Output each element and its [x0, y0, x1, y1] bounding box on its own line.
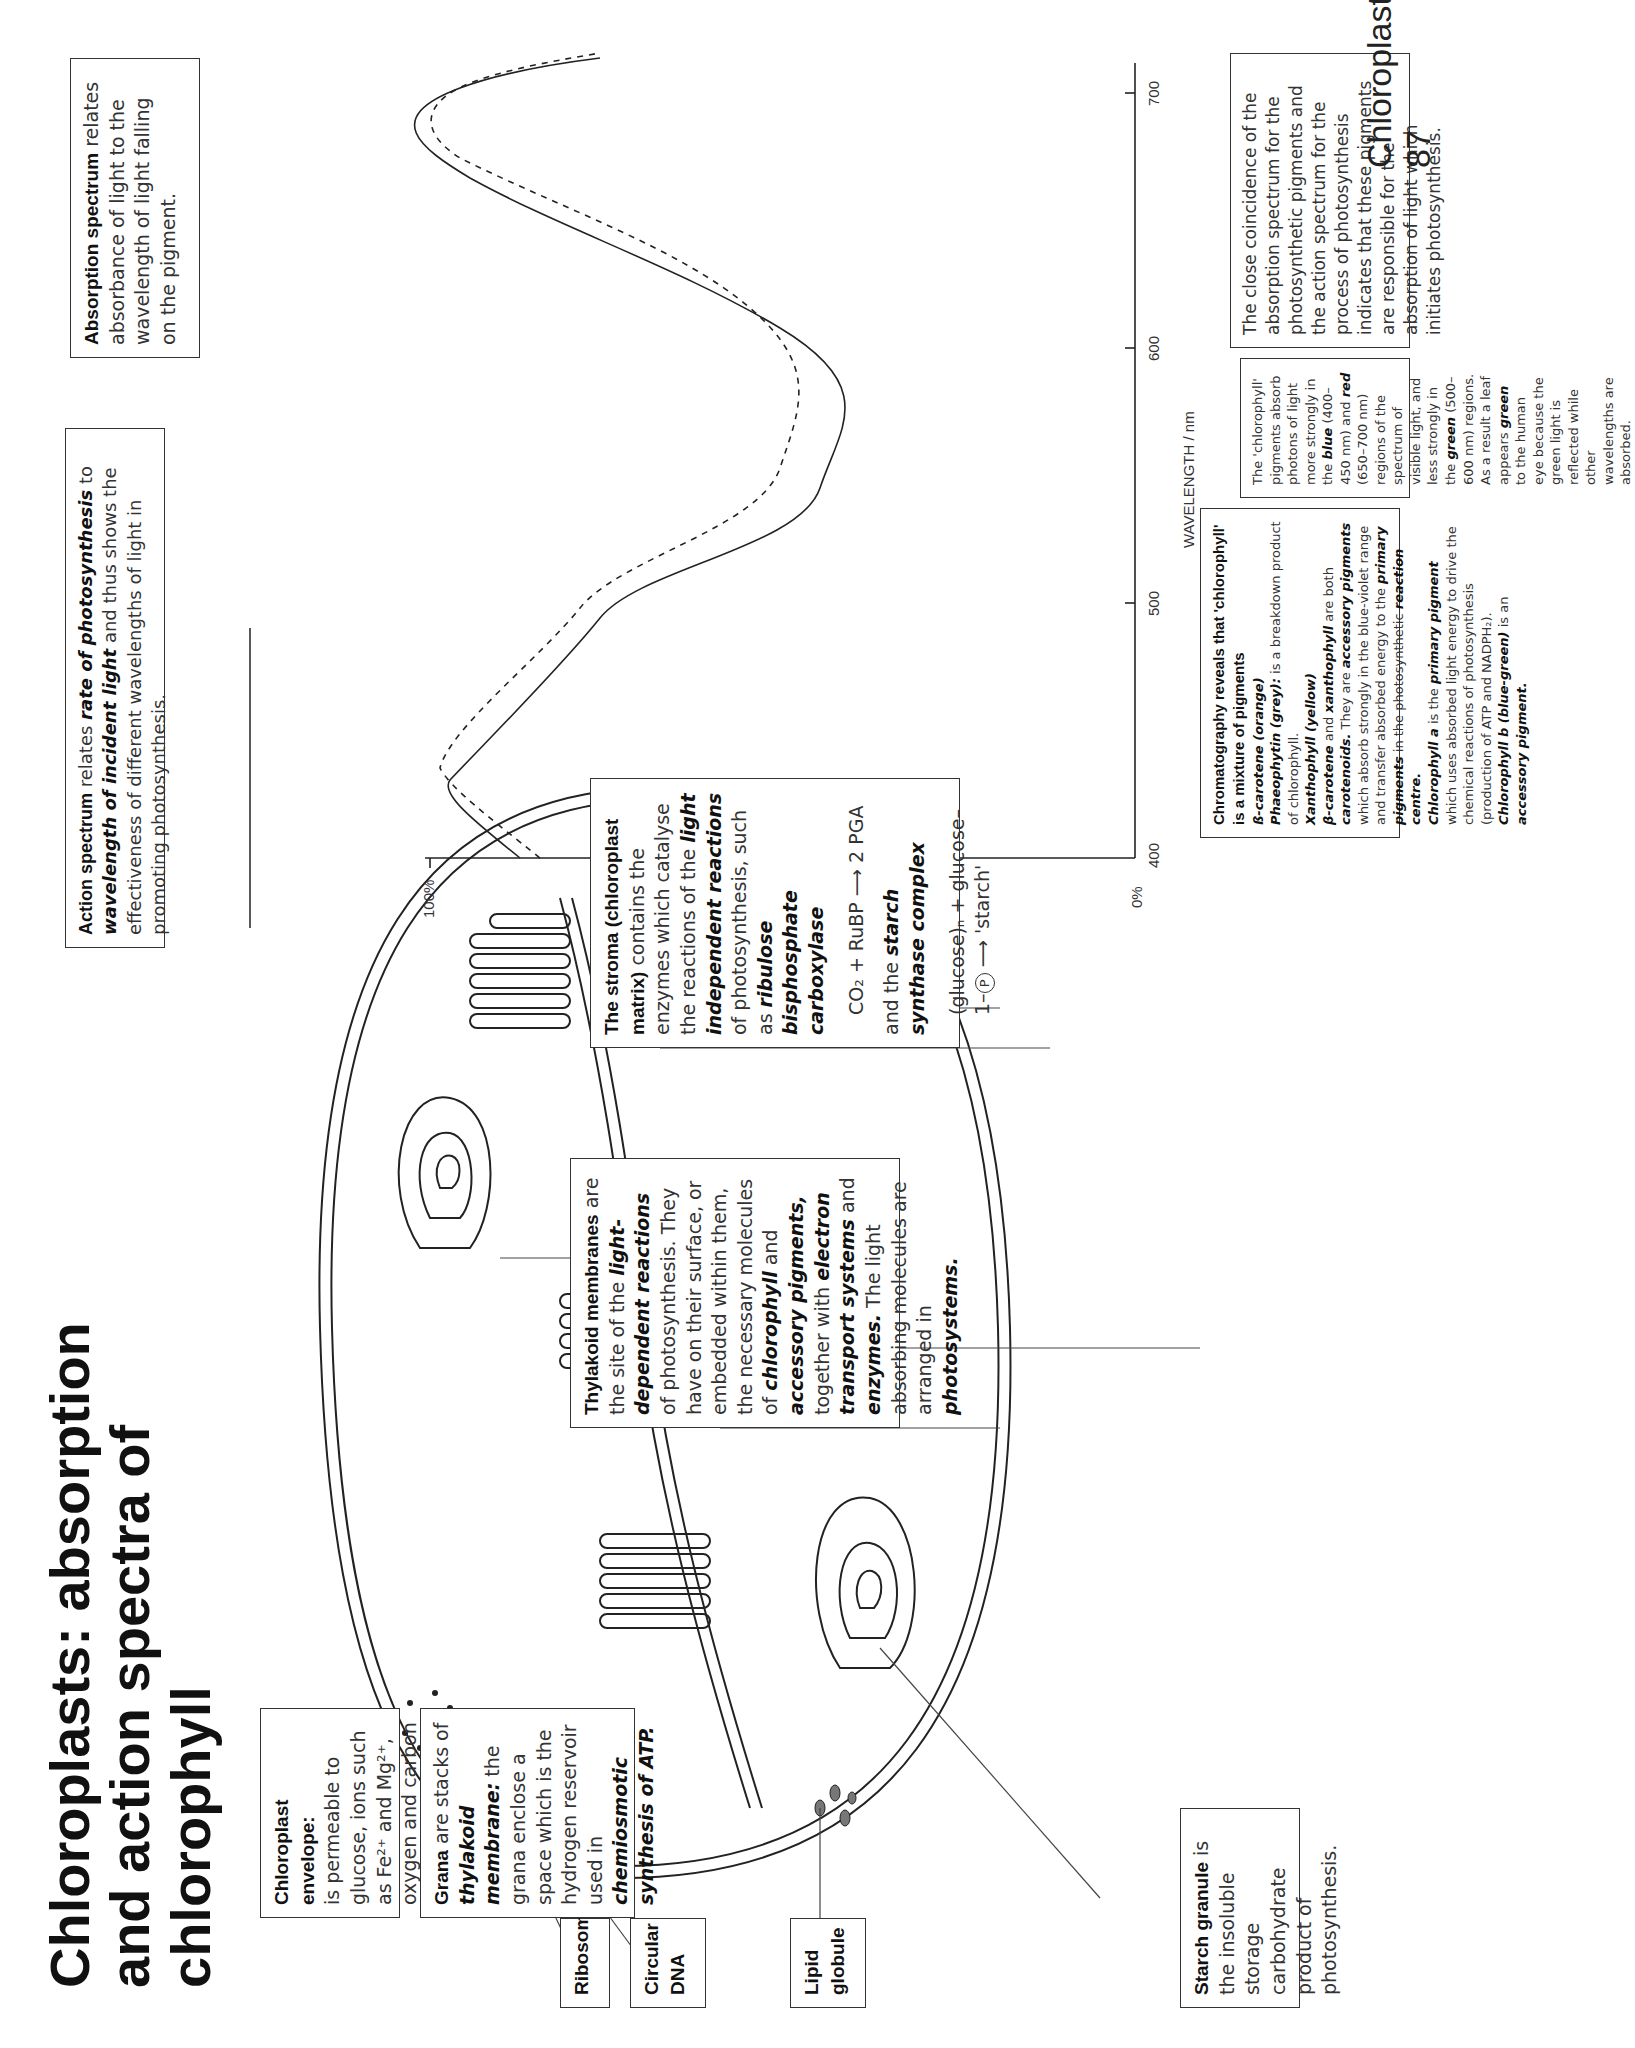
chl-bi1: blue	[1320, 428, 1335, 460]
chl-a-bi2: primary pigment	[1426, 561, 1441, 684]
y-tick-0: 0%	[1128, 886, 1145, 908]
thylakoid-bi3: accessory pigments,	[785, 1195, 807, 1415]
carotenoid-t3: are both	[1321, 567, 1336, 626]
grana-box: Grana are stacks of thylakoid membrane: …	[420, 1708, 635, 1918]
chl-a-t2: which uses absorbed light energy to driv…	[1444, 526, 1494, 825]
x-axis-label: WAVELENGTH / nm	[1180, 411, 1197, 548]
eq2-right: 'starch'	[971, 865, 993, 934]
action-t2: to	[75, 466, 96, 490]
chl-b-bi2: accessory pigment.	[1514, 682, 1529, 825]
chl-a-t1: is the	[1426, 684, 1441, 728]
grana-bi2: chemiosmotic synthesis of ATP.	[609, 1727, 657, 1906]
circular-dna-label: CircularDNA	[630, 1918, 706, 2008]
thylakoid-heading: Thylakoid membranes	[581, 1214, 602, 1415]
lipid-text-2: globule	[825, 1931, 851, 1995]
grana-t1: are stacks of	[430, 1723, 452, 1851]
lipid-globule-label: Lipidglobule	[790, 1918, 866, 2008]
chlorophyll-colour-box: The 'chlorophyll' pigments absorb photon…	[1240, 358, 1410, 498]
action-bi1: rate of photosynthesis	[75, 490, 96, 720]
lipid-text-1: Lipid	[799, 1931, 825, 1995]
grana-bi1: thylakoid membrane:	[456, 1783, 504, 1905]
action-bi2: wavelength of incident light	[99, 649, 120, 935]
phaeophytin-label: Phaeophytin (grey):	[1268, 678, 1283, 825]
phosphate-circle-icon: P	[975, 973, 995, 993]
action-heading: Action spectrum	[76, 793, 96, 935]
dna-text-2: DNA	[665, 1931, 691, 1995]
absorption-spectrum-box: Absorption spectrum relates absorbance o…	[70, 58, 200, 358]
ribosomes-label: Ribosomes	[560, 1918, 610, 2008]
thylakoid-bi5: enzymes.	[862, 1314, 884, 1415]
starch-box: Starch granule is the insoluble storage …	[1180, 1808, 1300, 2008]
stroma-box: The stroma (chloroplast matrix) contains…	[590, 778, 960, 1048]
thylakoid-t4: together with	[811, 1281, 833, 1415]
eq1-right: 2 PGA	[845, 806, 867, 863]
grana-heading: Grana	[431, 1850, 452, 1905]
carotenoid-bi4: accessory pigments	[1338, 523, 1353, 668]
action-spectrum-curve	[415, 58, 845, 858]
stroma-t3: and the	[880, 956, 902, 1035]
carotenoid-bi3: carotenoids.	[1338, 734, 1353, 825]
dna-text-1: Circular	[639, 1931, 665, 1995]
chl-bi2: red	[1338, 373, 1353, 398]
action-spectrum-box: Action spectrum relates rate of photosyn…	[65, 428, 165, 948]
chl-bi4: green	[1496, 386, 1511, 429]
equation-2: (glucose)ₙ + glucose–1–P ⟶ 'starch'	[945, 791, 996, 1015]
chromatography-panel: Chromatography reveals that 'chlorophyll…	[1200, 508, 1400, 838]
x-tick-500: 500	[1145, 591, 1162, 616]
beta-carotene-label: ß-carotene (orange)	[1250, 521, 1268, 825]
carotenoid-t6: in the photosynthetic	[1391, 609, 1406, 756]
chl-b-t1: is an	[1496, 597, 1511, 632]
thylakoid-bi2: chlorophyll	[759, 1271, 781, 1390]
envelope-box: Chloroplast envelope: is permeable to gl…	[260, 1708, 400, 1918]
chromatography-heading: Chromatography reveals that 'chlorophyll…	[1209, 521, 1250, 825]
carotenoid-t4: They are	[1338, 668, 1353, 733]
thylakoid-bi6: photosystems.	[939, 1257, 961, 1415]
equation-1: CO₂ + RuBP ⟶ 2 PGA	[844, 791, 870, 1015]
thylakoid-box: Thylakoid membranes are the site of the …	[570, 1158, 900, 1428]
starch-heading: Starch granule	[1191, 1862, 1212, 1995]
carotenoid-t2: and	[1321, 713, 1336, 746]
chl-b-label: Chlorophyll b (blue-green)	[1496, 631, 1511, 825]
x-tick-400: 400	[1145, 843, 1162, 868]
eq1-left: CO₂ + RuBP	[845, 902, 867, 1015]
arrow-icon: ⟶	[845, 869, 867, 896]
thylakoid-t3: and	[759, 1230, 781, 1272]
arrow-icon: ⟶	[971, 940, 993, 967]
absorption-spectrum-curve	[431, 53, 799, 858]
page-footer: Chloroplasts 87	[1360, 0, 1438, 168]
starch-text: is the insoluble storage carbohydrate pr…	[1190, 1841, 1340, 1995]
chl-bi3: green	[1443, 417, 1458, 460]
chl-a-label: Chlorophyll a	[1426, 728, 1441, 825]
carotenoid-t1: β-carotene	[1321, 745, 1336, 825]
xanthophyll-label: Xanthophyll (yellow)	[1302, 521, 1320, 825]
y-tick-100: 100%	[420, 880, 437, 918]
action-t1: relates	[75, 720, 96, 793]
envelope-heading: Chloroplast envelope:	[271, 1799, 318, 1905]
absorption-heading: Absorption spectrum	[81, 153, 102, 345]
x-tick-700: 700	[1145, 81, 1162, 106]
thylakoid-t5: and	[836, 1177, 858, 1219]
chl-t5: to the human eye because the green light…	[1513, 377, 1633, 485]
x-tick-600: 600	[1145, 336, 1162, 361]
carotenoid-bi2: xanthophyll	[1321, 626, 1336, 713]
